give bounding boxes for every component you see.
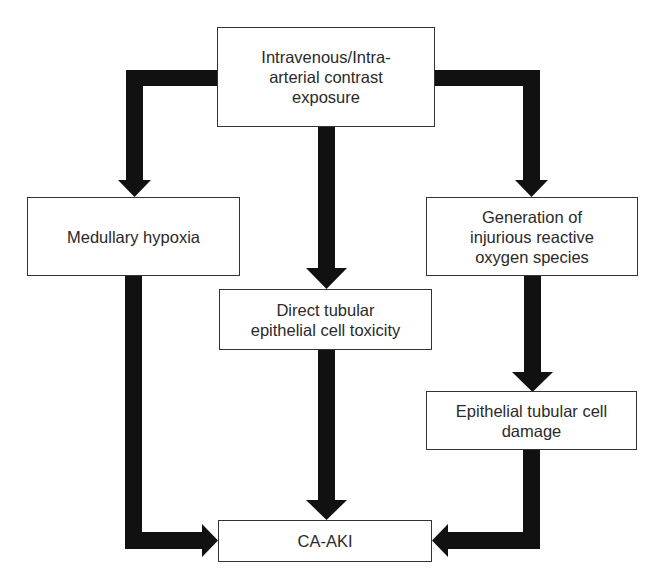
node-contrast-exposure: Intravenous/Intra- arterial contrast exp… <box>217 27 435 127</box>
flowchart: Intravenous/Intra- arterial contrast exp… <box>0 0 658 577</box>
node-label: Direct tubular epithelial cell toxicity <box>251 300 400 340</box>
arrow-exposure-to-hypoxia <box>118 70 218 197</box>
node-label: Epithelial tubular cell damage <box>456 401 607 441</box>
node-epithelial-cell-damage: Epithelial tubular cell damage <box>426 391 637 450</box>
arrow-damage-to-outcome <box>432 450 540 557</box>
arrow-toxicity-to-outcome <box>306 350 347 520</box>
arrow-exposure-to-ros <box>434 70 548 197</box>
arrow-hypoxia-to-outcome <box>125 276 218 557</box>
node-ca-aki: CA-AKI <box>218 520 432 562</box>
node-reactive-oxygen-species: Generation of injurious reactive oxygen … <box>426 197 638 276</box>
node-direct-tubular-toxicity: Direct tubular epithelial cell toxicity <box>219 289 432 350</box>
node-label: Medullary hypoxia <box>67 227 200 247</box>
arrow-ros-to-damage <box>512 276 553 392</box>
node-label: CA-AKI <box>297 531 352 551</box>
arrow-exposure-to-toxicity <box>306 127 347 289</box>
node-label: Intravenous/Intra- arterial contrast exp… <box>261 47 390 107</box>
node-label: Generation of injurious reactive oxygen … <box>470 207 594 267</box>
node-medullary-hypoxia: Medullary hypoxia <box>27 197 240 276</box>
